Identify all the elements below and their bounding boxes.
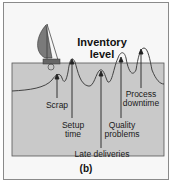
label-quality-problems: Quality problems <box>104 121 140 139</box>
quality-line-2: problems <box>104 130 140 139</box>
title-line-2: level <box>72 48 132 60</box>
label-late-deliveries: Late deliveries <box>72 150 132 159</box>
figure-caption: (b) <box>70 163 102 174</box>
inventory-level-title: Inventory level <box>72 36 132 60</box>
label-setup-time: Setup time <box>60 121 86 139</box>
process-line-2: downtime <box>121 99 161 108</box>
label-process-downtime: Process downtime <box>121 90 161 108</box>
setup-line-2: time <box>60 130 86 139</box>
title-line-1: Inventory <box>72 36 132 48</box>
label-scrap: Scrap <box>44 101 70 110</box>
